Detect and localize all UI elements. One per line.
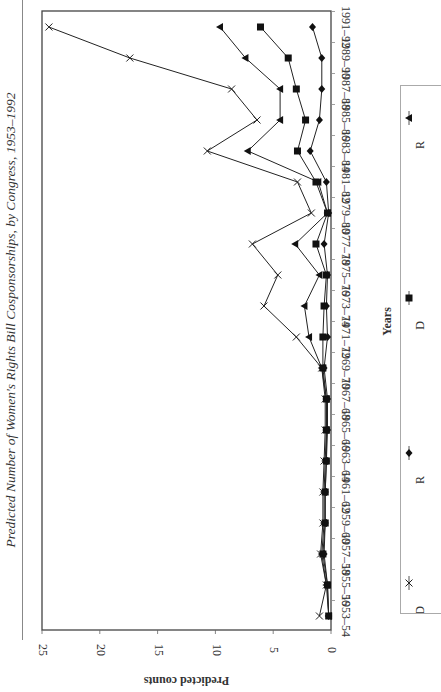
value-tick-label: 5 bbox=[267, 647, 281, 653]
svg-text:D: D bbox=[413, 606, 427, 613]
legend: RDRD bbox=[400, 85, 441, 614]
legend-entry-square: D bbox=[406, 291, 427, 330]
svg-text:R: R bbox=[413, 141, 427, 149]
value-tick-label: 0 bbox=[325, 647, 339, 653]
category-tick-label: 1991–92 bbox=[339, 6, 353, 48]
series-diamond bbox=[307, 23, 332, 620]
category-axis-title: Years bbox=[380, 307, 394, 336]
value-tick-label: 15 bbox=[152, 644, 166, 656]
svg-text:D: D bbox=[413, 321, 427, 330]
value-tick-label: 10 bbox=[210, 644, 224, 656]
legend-entry-triangle: R bbox=[405, 111, 427, 149]
value-axis-title: Predicted counts bbox=[143, 674, 229, 688]
value-tick-label: 20 bbox=[94, 644, 108, 656]
legend-entry-diamond: R bbox=[406, 446, 427, 484]
plot-frame bbox=[42, 11, 331, 630]
svg-text:R: R bbox=[413, 476, 427, 484]
series-square bbox=[257, 24, 332, 620]
series-x bbox=[45, 24, 329, 620]
legend-entry-x: D bbox=[406, 576, 427, 613]
value-tick-label: 25 bbox=[36, 644, 50, 656]
series-triangle bbox=[216, 23, 332, 620]
